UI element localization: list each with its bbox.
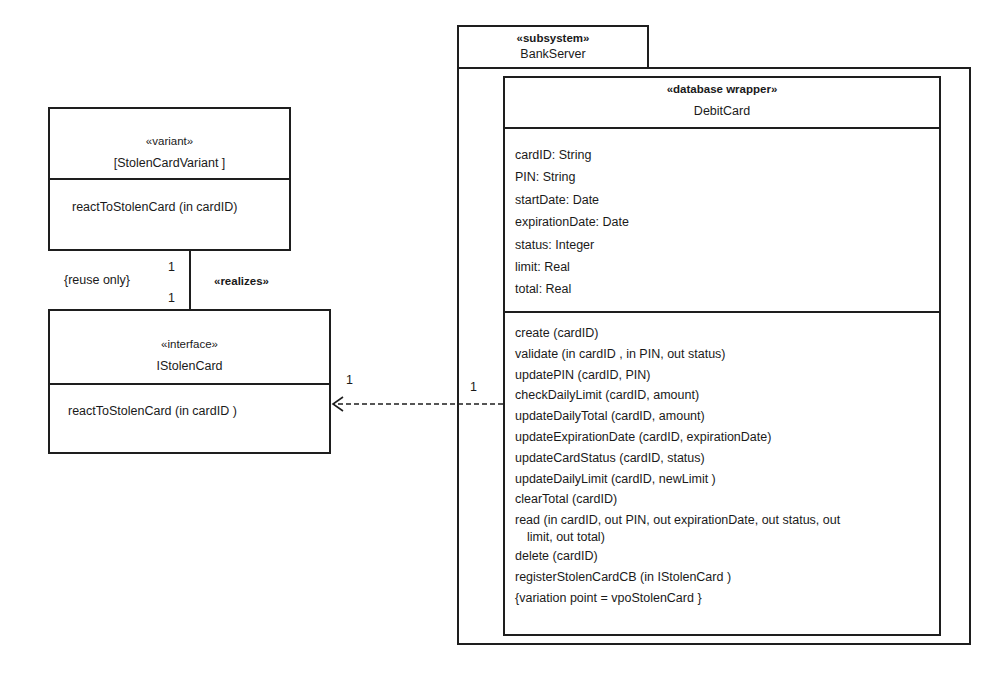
variant-stereotype: «variant» [48,134,291,149]
debitcard-attributes: cardID: String PIN: String startDate: Da… [515,144,629,301]
operation: updatePIN (cardID, PIN) [515,365,840,386]
multiplicity-bottom: 1 [168,291,175,306]
operation: updateExpirationDate (cardID, expiration… [515,427,840,448]
attribute: cardID: String [515,144,629,166]
attribute: total: Real [515,278,629,300]
operation: delete (cardID) [515,546,840,567]
operation: registerStolenCardCB (in IStolenCard ) [515,567,840,588]
package-stereotype: «subsystem» [457,31,649,46]
interface-separator [48,383,331,385]
operation: clearTotal (cardID) [515,489,840,510]
debitcard-operations: create (cardID) validate (in cardID , in… [515,323,840,609]
operation: updateDailyLimit (cardID, newLimit ) [515,469,840,490]
debitcard-name: DebitCard [503,104,941,119]
operation-continued: limit, out total) [515,529,840,546]
operation: updateDailyTotal (cardID, amount) [515,406,840,427]
operation: read (in cardID, out PIN, out expiration… [515,512,840,529]
interface-operation: reactToStolenCard (in cardID ) [68,404,237,419]
operation: checkDailyLimit (cardID, amount) [515,385,840,406]
reuse-constraint: {reuse only} [64,273,130,288]
realizes-stereotype: «realizes» [214,274,269,289]
dependency-multiplicity-interface: 1 [346,373,353,388]
variant-operation: reactToStolenCard (in cardID) [72,200,237,215]
package-name: BankServer [457,47,649,62]
debitcard-separator-1 [503,127,941,129]
debitcard-separator-2 [503,311,941,313]
attribute: expirationDate: Date [515,211,629,233]
attribute: startDate: Date [515,189,629,211]
operation: validate (in cardID , in PIN, out status… [515,344,840,365]
interface-stereotype: «interface» [48,337,331,352]
interface-name: IStolenCard [48,359,331,374]
operation: create (cardID) [515,323,840,344]
variant-name: [StolenCardVariant ] [48,156,291,171]
dependency-multiplicity-debitcard: 1 [470,380,477,395]
attribute: PIN: String [515,166,629,188]
attribute: status: Integer [515,234,629,256]
multiplicity-top: 1 [168,260,175,275]
operation: updateCardStatus (cardID, status) [515,448,840,469]
attribute: limit: Real [515,256,629,278]
interface-class[interactable] [48,309,331,454]
variant-separator [48,178,291,180]
debitcard-stereotype: «database wrapper» [503,82,941,97]
operation: {variation point = vpoStolenCard } [515,588,840,609]
